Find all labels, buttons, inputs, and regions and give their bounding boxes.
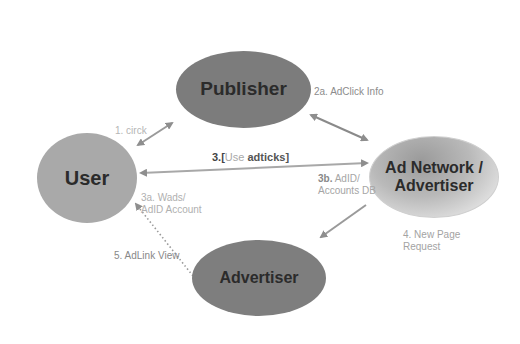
edge-label-4-line2: Request <box>403 241 460 253</box>
edge-label-3a-line1: 3a. Wads/ <box>141 192 202 204</box>
node-user-label: User <box>65 167 109 189</box>
edge-label-4-line1: 4. New Page <box>403 229 460 241</box>
edge-label-3-mid: Use <box>225 151 245 163</box>
edge-label-5-adlink-view: 5. AdLink View <box>114 250 179 262</box>
edge-adnetwork-advertiser <box>321 205 366 237</box>
edge-label-3a-line2: AdID Account <box>141 204 202 216</box>
node-publisher: Publisher <box>176 51 311 128</box>
edge-label-1-click: 1. circk <box>115 125 147 137</box>
edge-label-3-use-adticks: 3.[Use adticks] <box>212 151 289 163</box>
ad-flow-diagram: Publisher User Ad Network / Advertiser A… <box>0 0 520 344</box>
edge-label-3b-adid-accounts-db: 3b. AdID/ Accounts DB <box>318 173 376 197</box>
node-ad-network-label-line2: Advertiser <box>385 177 483 195</box>
node-ad-network: Ad Network / Advertiser <box>369 136 499 218</box>
edge-label-4-new-page-request: 4. New Page Request <box>403 229 460 253</box>
edge-label-3b-rest: AdID/ <box>332 173 359 184</box>
edge-label-3-prefix: 3.[ <box>212 151 225 163</box>
node-user: User <box>37 133 137 223</box>
edge-label-2a-adclick-info: 2a. AdClick Info <box>314 86 383 98</box>
edge-user-adnetwork <box>141 163 367 173</box>
edge-publisher-adnetwork <box>311 115 367 140</box>
node-advertiser-label: Advertiser <box>219 269 298 287</box>
edge-label-3-suffix: adticks] <box>247 151 289 163</box>
edge-label-3b-prefix: 3b. <box>318 173 332 184</box>
node-ad-network-label-line1: Ad Network / <box>385 159 483 177</box>
node-advertiser: Advertiser <box>192 240 326 316</box>
node-publisher-label: Publisher <box>200 79 287 100</box>
edge-label-3a-wads-account: 3a. Wads/ AdID Account <box>141 192 202 216</box>
edge-label-3b-line2: Accounts DB <box>318 185 376 197</box>
